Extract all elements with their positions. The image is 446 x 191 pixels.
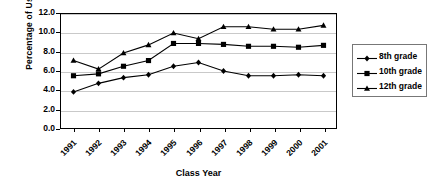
- data-point-diamond: [171, 63, 176, 69]
- data-point-square: [246, 44, 251, 49]
- x-axis-tickmark: [149, 128, 150, 132]
- y-axis-tick-label: 8.0: [25, 46, 55, 56]
- data-point-diamond: [296, 72, 301, 78]
- legend-item-10th-grade[interactable]: 10th grade: [356, 63, 422, 78]
- data-point-square: [146, 58, 151, 63]
- data-point-diamond: [96, 80, 101, 86]
- data-point-triangle: [321, 22, 327, 27]
- legend-label: 10th grade: [378, 66, 422, 76]
- data-point-square: [196, 41, 201, 46]
- data-point-square: [321, 43, 326, 48]
- x-axis-tickmark: [200, 128, 201, 132]
- data-point-diamond: [246, 73, 251, 79]
- y-axis-tick-label: 10.0: [25, 26, 55, 36]
- x-axis-tickmark: [225, 128, 226, 132]
- x-axis-tickmark: [250, 128, 251, 132]
- data-point-triangle: [171, 30, 177, 35]
- series-layer: [61, 14, 336, 128]
- x-axis-tickmark: [174, 128, 175, 132]
- data-point-square: [221, 42, 226, 47]
- data-point-square: [296, 45, 301, 50]
- y-axis-tick-label: 0.0: [25, 123, 55, 133]
- data-point-square: [271, 44, 276, 49]
- data-point-diamond: [221, 68, 226, 74]
- square-marker-icon: [356, 65, 378, 76]
- y-axis-tick-label: 6.0: [25, 65, 55, 75]
- series-8th-grade: [71, 60, 326, 95]
- data-point-diamond: [121, 75, 126, 81]
- line-chart: Percentage of Use 12.010.08.06.04.02.00.…: [0, 0, 446, 191]
- y-axis-tick-label: 12.0: [25, 7, 55, 17]
- data-point-square: [96, 71, 101, 76]
- data-point-diamond: [146, 72, 151, 78]
- legend: 8th grade10th grade12th grade: [352, 44, 427, 97]
- y-axis-tickmark: [56, 129, 60, 130]
- data-point-square: [71, 73, 76, 78]
- legend-label: 12th grade: [378, 81, 422, 91]
- data-point-square: [171, 41, 176, 46]
- series-line: [73, 62, 323, 91]
- plot-area: [60, 13, 337, 129]
- legend-label: 8th grade: [378, 51, 417, 61]
- data-point-diamond: [71, 89, 76, 95]
- data-point-square: [121, 64, 126, 69]
- legend-item-8th-grade[interactable]: 8th grade: [356, 48, 422, 63]
- x-axis-tickmark: [99, 128, 100, 132]
- y-axis-tick-label: 2.0: [25, 104, 55, 114]
- diamond-marker-icon: [356, 50, 378, 61]
- x-axis-tickmark: [300, 128, 301, 132]
- x-axis-tickmark: [325, 128, 326, 132]
- x-axis-title: Class Year: [60, 168, 337, 178]
- data-point-triangle: [71, 58, 77, 63]
- y-axis-tick-label: 4.0: [25, 84, 55, 94]
- triangle-marker-icon: [356, 80, 378, 91]
- legend-item-12th-grade[interactable]: 12th grade: [356, 78, 422, 93]
- x-axis-tickmark: [124, 128, 125, 132]
- data-point-diamond: [364, 56, 369, 62]
- data-point-diamond: [321, 73, 326, 79]
- data-point-diamond: [196, 60, 201, 66]
- data-point-diamond: [271, 73, 276, 79]
- x-axis-tickmark: [74, 128, 75, 132]
- data-point-square: [364, 71, 369, 76]
- x-axis-tickmark: [275, 128, 276, 132]
